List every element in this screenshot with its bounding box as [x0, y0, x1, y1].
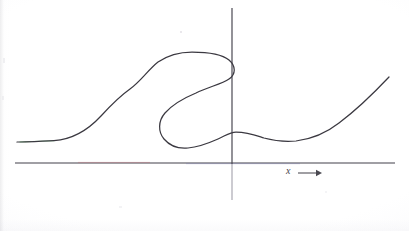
curve-group: [17, 52, 389, 148]
x-axis-label: x: [286, 166, 290, 176]
axes-group: [15, 8, 395, 200]
x-axis-arrow: [298, 170, 322, 176]
figure-canvas: x: [0, 0, 409, 231]
graph-svg: [0, 0, 409, 231]
graph-curve: [17, 52, 389, 148]
arrow-head-icon: [316, 170, 322, 176]
